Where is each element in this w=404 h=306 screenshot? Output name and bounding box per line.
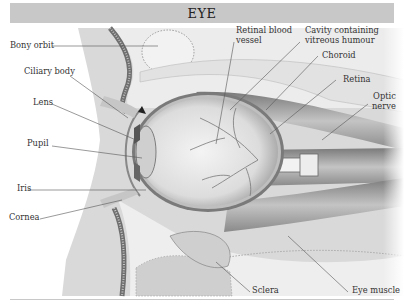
label-pupil: Pupil [27, 139, 49, 149]
label-choroid: Choroid [322, 51, 356, 61]
label-lens: Lens [33, 98, 53, 108]
label-bony-orbit: Bony orbit [10, 41, 54, 51]
label-retina: Retina [343, 75, 370, 85]
bottom-divider [10, 299, 394, 300]
label-retinal-blood-vessel: Retinal blood vessel [236, 26, 292, 45]
label-ciliary-body: Ciliary body [24, 67, 75, 77]
label-cornea: Cornea [9, 213, 40, 223]
label-cavity-vitreous-humour: Cavity containing vitreous humour [305, 26, 379, 45]
label-sclera: Sclera [252, 286, 279, 296]
eye-cross-section-illustration [0, 0, 404, 306]
label-optic-nerve: Optic nerve [372, 92, 396, 111]
label-eye-muscle: Eye muscle [352, 286, 400, 296]
label-iris: Iris [17, 184, 31, 194]
